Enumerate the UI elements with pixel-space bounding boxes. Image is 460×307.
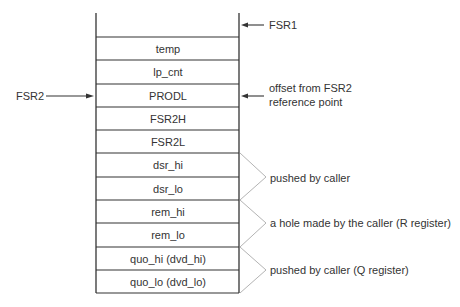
stack-cell-temp: temp xyxy=(97,37,239,60)
stack-cell-fsr2h: FSR2H xyxy=(97,107,239,130)
brace-pushed-icon xyxy=(240,153,266,200)
fsr1-label: FSR1 xyxy=(269,18,297,32)
offset-label-line1: offset from FSR2 xyxy=(269,81,352,95)
stack-cell-prodl: PRODL xyxy=(97,84,239,107)
fsr1-arrow-icon xyxy=(241,23,264,28)
stack-cell-dsr-hi: dsr_hi xyxy=(97,153,239,176)
brace-hole-icon xyxy=(240,200,266,247)
stack-cell-quo-lo: quo_lo (dvd_lo) xyxy=(97,270,239,293)
stack-cell-rem-hi: rem_hi xyxy=(97,200,239,223)
brace-label-hole: a hole made by the caller (R register) xyxy=(270,216,451,230)
stack-cell-fsr2l: FSR2L xyxy=(97,130,239,153)
stack-cell-quo-hi: quo_hi (dvd_hi) xyxy=(97,247,239,270)
stack-cell-dsr-lo: dsr_lo xyxy=(97,177,239,200)
offset-label-line2: reference point xyxy=(269,95,342,109)
fsr2-label: FSR2 xyxy=(16,89,44,103)
brace-label-q: pushed by caller (Q register) xyxy=(270,263,409,277)
brace-label-pushed: pushed by caller xyxy=(270,171,350,185)
stack-cell-rem-lo: rem_lo xyxy=(97,223,239,246)
brace-q-icon xyxy=(240,247,266,293)
offset-arrow-icon xyxy=(241,94,264,99)
stack-cell-lp-cnt: lp_cnt xyxy=(97,60,239,83)
fsr2-arrow-icon xyxy=(46,94,94,99)
